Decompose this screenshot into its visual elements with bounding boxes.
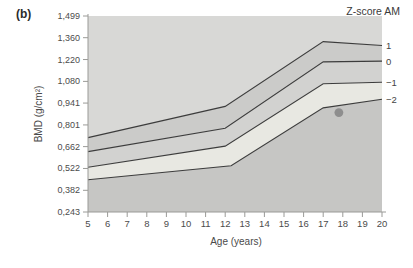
patient-measurement-dot — [334, 108, 343, 117]
y-tick-label: 0,941 — [57, 98, 80, 108]
x-tick-label: 12 — [220, 218, 231, 229]
x-tick-label: 20 — [377, 218, 388, 229]
x-tick-label: 18 — [338, 218, 349, 229]
x-tick-label: 16 — [298, 218, 309, 229]
y-tick-label: 0,243 — [57, 207, 80, 217]
y-axis-title: BMD (g/cm²) — [33, 86, 44, 143]
y-tick-label: 1,220 — [57, 55, 80, 65]
x-tick-label: 9 — [164, 218, 169, 229]
zscore-minus-1-label: −1 — [386, 77, 397, 88]
chart-title: Z-score AM — [346, 5, 400, 17]
y-tick-label: 0,801 — [57, 120, 80, 130]
y-tick-label: 0,382 — [57, 185, 80, 195]
x-tick-label: 5 — [85, 218, 90, 229]
figure-panel-b: { "panel_label": "(b)", "chart_data": { … — [0, 0, 413, 268]
x-tick-label: 11 — [201, 218, 211, 229]
zscore-minus-2-label: −2 — [386, 94, 397, 105]
x-tick-label: 14 — [259, 218, 270, 229]
x-tick-label: 13 — [240, 218, 251, 229]
x-tick-label: 8 — [144, 218, 149, 229]
y-tick-label: 0,522 — [57, 163, 80, 173]
y-tick-label: 1,360 — [57, 33, 80, 43]
zscore-0-label: 0 — [386, 56, 391, 67]
x-tick-label: 17 — [318, 218, 329, 229]
bmd-zscore-chart: 10−1−21,4991,3601,2201,0800,9410,8010,66… — [0, 0, 413, 268]
y-tick-label: 0,662 — [57, 142, 80, 152]
y-tick-label: 1,499 — [57, 11, 80, 21]
zscore-plus-1-label: 1 — [386, 40, 391, 51]
x-tick-label: 19 — [357, 218, 368, 229]
y-tick-label: 1,080 — [57, 76, 80, 86]
x-tick-label: 10 — [181, 218, 192, 229]
x-tick-label: 6 — [105, 218, 110, 229]
x-tick-label: 15 — [279, 218, 290, 229]
panel-label: (b) — [16, 7, 31, 21]
x-axis-title: Age (years) — [88, 236, 384, 247]
x-tick-label: 7 — [125, 218, 130, 229]
